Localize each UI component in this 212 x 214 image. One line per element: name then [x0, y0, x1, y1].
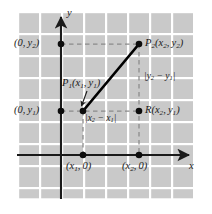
- dot-p2: [136, 41, 143, 48]
- label-x1-intercept: (x1, 0): [66, 161, 91, 173]
- dot-y1-intercept: [58, 108, 65, 115]
- label-y1-intercept: (0, y1): [14, 105, 39, 117]
- dot-x2-intercept: [136, 152, 143, 159]
- dot-y2-intercept: [58, 41, 65, 48]
- label-y2-intercept: (0, y2): [14, 38, 39, 50]
- dot-r: [136, 108, 143, 115]
- label-vertical-leg: |y2 − y1|: [144, 72, 175, 82]
- label-r: R(x2, y1): [145, 105, 180, 117]
- label-x-axis: x: [189, 161, 194, 172]
- dot-x1-intercept: [80, 152, 87, 159]
- label-horizontal-leg: |x2 − x1|: [85, 114, 116, 124]
- label-x2-intercept: (x2, 0): [122, 161, 147, 173]
- label-p1: P1(x1, y1): [62, 78, 100, 90]
- label-y-axis: y: [67, 8, 72, 19]
- label-p2: P2(x2, y2): [145, 38, 183, 50]
- figure-container: (0, y2) (0, y1) P2(x2, y2) R(x2, y1) P1(…: [0, 0, 212, 214]
